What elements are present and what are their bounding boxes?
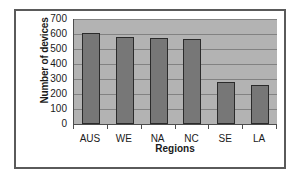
bar bbox=[82, 33, 100, 124]
bar bbox=[183, 39, 201, 124]
bar bbox=[116, 37, 134, 124]
x-axis-title: Regions bbox=[73, 143, 277, 154]
bar-slot bbox=[108, 19, 142, 124]
plot-area bbox=[73, 19, 277, 125]
y-tick-label: 700 bbox=[40, 14, 67, 24]
y-axis-tick-labels: 0100200300400500600700 bbox=[40, 19, 67, 124]
x-tick-mark bbox=[175, 125, 176, 129]
bar-slot bbox=[74, 19, 108, 124]
bar-series bbox=[74, 19, 277, 124]
bar-slot bbox=[243, 19, 277, 124]
y-tick-label: 100 bbox=[40, 104, 67, 114]
x-tick-mark bbox=[141, 125, 142, 129]
bar bbox=[150, 38, 168, 124]
x-tick-mark bbox=[208, 125, 209, 129]
x-tick-mark bbox=[107, 125, 108, 129]
y-tick-label: 400 bbox=[40, 59, 67, 69]
y-tick-label: 0 bbox=[40, 119, 67, 129]
bar-slot bbox=[209, 19, 243, 124]
bar bbox=[217, 82, 235, 124]
bar-slot bbox=[176, 19, 210, 124]
x-tick-mark bbox=[242, 125, 243, 129]
y-tick-label: 300 bbox=[40, 74, 67, 84]
y-tick-label: 200 bbox=[40, 89, 67, 99]
chart-figure-frame: Number of devices 0100200300400500600700… bbox=[14, 9, 286, 169]
y-tick-label: 500 bbox=[40, 44, 67, 54]
bar-slot bbox=[142, 19, 176, 124]
x-tick-mark bbox=[276, 125, 277, 129]
x-tick-mark bbox=[73, 125, 74, 129]
bar bbox=[251, 85, 269, 124]
y-tick-label: 600 bbox=[40, 29, 67, 39]
